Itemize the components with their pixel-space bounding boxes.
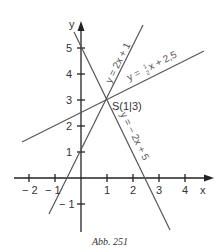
figure-caption: Abb. 251: [0, 236, 220, 247]
x-axis-label: x: [200, 184, 206, 196]
x-tick-label: − 2: [22, 184, 38, 196]
x-axis: [14, 174, 214, 182]
line-label-half-x-b: x + 2,5: [146, 48, 178, 72]
x-tick-label: − 1: [45, 184, 61, 196]
x-tick-label: 1: [104, 184, 110, 196]
y-tick-label: 2: [66, 120, 72, 132]
line-label-minus-2x-plus-5: y = − 2x + 5: [118, 110, 152, 162]
coordinate-plot: − 2 − 1 1 2 3 4 x 5 4 3 2 1 − 1 y S(1|3)…: [0, 0, 220, 252]
y-tick-label: 1: [66, 146, 72, 158]
x-tick-label: 4: [182, 184, 188, 196]
y-tick-label: 3: [66, 94, 72, 106]
y-axis-label: y: [69, 18, 75, 30]
y-tick-label: − 1: [59, 198, 75, 210]
y-tick-label: 5: [66, 42, 72, 54]
x-tick-label: 2: [130, 184, 136, 196]
x-tick-label: 3: [156, 184, 162, 196]
y-tick-label: 4: [66, 68, 72, 80]
line-label-half-x-a: y =: [125, 67, 142, 83]
